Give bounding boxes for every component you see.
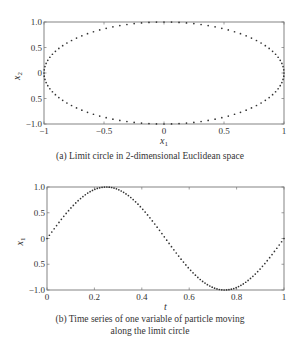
data-point xyxy=(43,69,45,71)
data-point xyxy=(245,109,247,111)
data-point xyxy=(132,199,134,201)
data-point xyxy=(185,264,187,266)
data-point xyxy=(87,111,89,113)
data-point xyxy=(207,120,209,122)
data-point xyxy=(168,243,170,245)
data-point xyxy=(99,115,101,117)
data-point xyxy=(276,247,278,249)
data-point xyxy=(133,23,135,25)
data-point xyxy=(140,206,142,208)
data-point xyxy=(226,289,228,291)
data-point xyxy=(119,120,121,122)
data-point xyxy=(234,113,236,115)
data-point xyxy=(282,66,284,68)
data-point xyxy=(163,236,165,238)
data-point xyxy=(264,45,266,47)
data-point xyxy=(62,45,64,47)
data-point xyxy=(56,225,58,227)
data-point xyxy=(180,258,182,260)
data-point xyxy=(193,23,195,25)
data-point xyxy=(52,91,54,93)
data-point xyxy=(47,59,49,61)
data-point xyxy=(133,122,135,124)
data-point xyxy=(282,79,284,81)
x-tick-label: 1 xyxy=(282,292,287,302)
data-point xyxy=(281,241,283,243)
data-point xyxy=(163,21,165,23)
data-point xyxy=(193,122,195,124)
data-point xyxy=(101,186,103,188)
data-point xyxy=(281,82,283,84)
x-tick-label: −0.5 xyxy=(96,126,113,136)
y-tick-label: 0.5 xyxy=(34,259,46,269)
data-point xyxy=(120,190,122,192)
data-point xyxy=(156,123,158,125)
data-point xyxy=(93,31,95,33)
data-point xyxy=(43,72,45,74)
data-point xyxy=(148,123,150,125)
data-point xyxy=(275,91,277,93)
data-point xyxy=(156,226,158,228)
data-point xyxy=(178,22,180,24)
x-tick-label: 0.6 xyxy=(184,292,196,302)
data-point xyxy=(262,265,264,267)
data-point xyxy=(221,117,223,119)
data-point xyxy=(49,88,51,90)
data-point xyxy=(230,288,232,290)
data-point xyxy=(183,261,185,263)
y-tick-label: 0 xyxy=(41,234,46,244)
data-point xyxy=(245,35,247,37)
x-tick-label: 0.5 xyxy=(218,126,230,136)
data-point xyxy=(260,42,262,44)
data-point xyxy=(202,281,204,283)
data-point xyxy=(214,287,216,289)
y-tick-label: 1.0 xyxy=(34,182,46,192)
data-point xyxy=(112,118,114,120)
data-point xyxy=(245,281,247,283)
data-point xyxy=(49,56,51,58)
data-point xyxy=(51,231,53,233)
data-point xyxy=(240,284,242,286)
data-point xyxy=(55,50,57,52)
data-point xyxy=(46,238,48,240)
data-point xyxy=(197,277,199,279)
data-point xyxy=(116,188,118,190)
limit-circle-plot: −1−0.500.511.00.500.5−1.0x1x2 xyxy=(11,17,286,148)
data-point xyxy=(268,97,270,99)
data-point xyxy=(52,53,54,55)
axes-frame xyxy=(44,22,284,124)
y-axis-label: x1 xyxy=(14,237,27,246)
data-point xyxy=(252,275,254,277)
data-point xyxy=(221,27,223,29)
data-point xyxy=(82,196,84,198)
caption-b-line1: (b) Time series of one variable of parti… xyxy=(0,313,300,325)
data-point xyxy=(195,274,197,276)
y-tick-label: 0.5 xyxy=(34,208,46,218)
x-tick-label: 0 xyxy=(45,292,50,302)
data-point xyxy=(200,24,202,26)
data-point xyxy=(84,194,86,196)
data-point xyxy=(66,102,68,104)
data-point xyxy=(147,214,149,216)
data-point xyxy=(251,107,253,109)
data-point xyxy=(93,113,95,115)
data-point xyxy=(66,42,68,44)
data-point xyxy=(62,99,64,101)
x-axis-label: x1 xyxy=(159,135,168,148)
data-point xyxy=(171,123,173,125)
data-point xyxy=(125,193,127,195)
data-point xyxy=(128,195,130,197)
data-point xyxy=(81,109,83,111)
data-point xyxy=(130,197,132,199)
data-point xyxy=(247,280,249,282)
data-point xyxy=(186,22,188,24)
data-point xyxy=(187,267,189,269)
data-point xyxy=(104,186,106,188)
data-point xyxy=(233,288,235,290)
data-point xyxy=(257,271,259,273)
data-point xyxy=(94,188,96,190)
data-point xyxy=(70,207,72,209)
y-tick-label: 1.0 xyxy=(31,17,43,27)
figure-canvas: −1−0.500.511.00.500.5−1.0x1x2 00.20.40.6… xyxy=(0,0,300,347)
axes-frame xyxy=(47,187,284,290)
